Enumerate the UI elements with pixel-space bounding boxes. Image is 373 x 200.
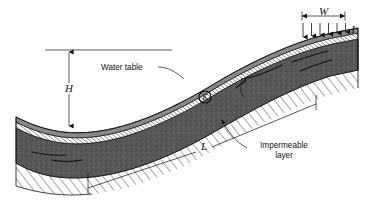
groundwater-diagram: W I H L Water table [0, 0, 373, 200]
width-dimension: W [302, 5, 345, 21]
width-arrow-right [340, 14, 345, 19]
width-label: W [319, 5, 329, 17]
head-label: H [64, 82, 74, 94]
impermeable-label-line2: layer [275, 151, 293, 160]
length-label: L [200, 140, 207, 152]
water-table-leader [158, 67, 184, 79]
water-table-callout: Water table [101, 63, 184, 79]
head-dimension: H [45, 50, 172, 126]
water-table-label: Water table [101, 63, 143, 72]
impermeable-label-line1: Impermeable [260, 141, 308, 150]
conductivity-label: K [201, 93, 208, 102]
diagram-canvas: W I H L Water table [0, 0, 373, 200]
width-arrow-left [302, 14, 307, 19]
depth-label: D [239, 76, 247, 86]
